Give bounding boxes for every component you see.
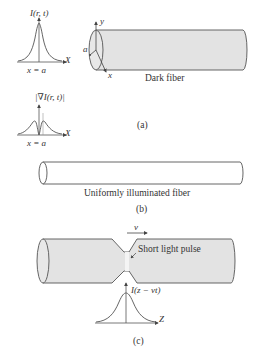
caption-b: (b) (136, 204, 147, 214)
gradient-marker-label: x = a (27, 138, 46, 148)
dark-fiber-label: Dark fiber (145, 73, 184, 83)
gradient-x-axis-label: X (65, 128, 71, 138)
illuminated-fiber-label: Uniformly illuminated fiber (84, 188, 190, 198)
intensity-marker-label: x = a (27, 65, 46, 75)
gradient-plot (17, 105, 66, 135)
caption-a: (a) (137, 120, 148, 130)
pulse-fiber (37, 233, 235, 283)
velocity-label: v (134, 222, 138, 232)
dark-fiber (89, 22, 247, 72)
gradient-label: |∇I(r, t)| (35, 92, 65, 102)
intensity-plot (17, 18, 66, 62)
intensity-x-axis-label: X (65, 55, 71, 65)
illuminated-fiber (39, 162, 243, 184)
fiber-y-axis-label: y (100, 16, 104, 26)
caption-c: (c) (133, 336, 144, 346)
fiber-radius-label: a (83, 44, 88, 54)
pulse-x-axis-label: Z (159, 314, 164, 324)
diagram-canvas (0, 0, 256, 358)
fiber-x-axis-label: x (108, 70, 112, 80)
pulse-label: Short light pulse (138, 244, 201, 254)
intensity-label: I(r, t) (30, 8, 49, 18)
pulse-plot-label: I(z − vt) (131, 285, 161, 295)
